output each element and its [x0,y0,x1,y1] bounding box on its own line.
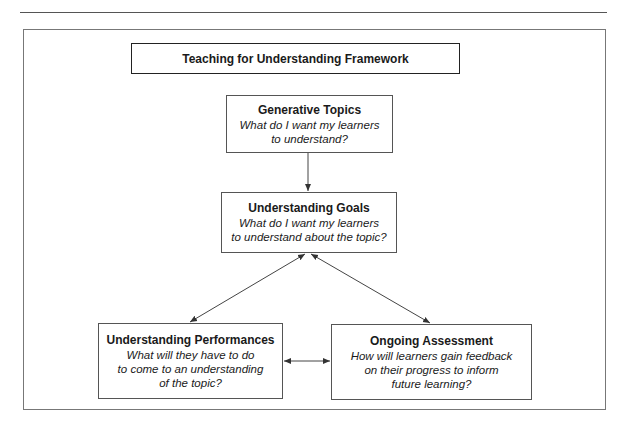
arrow-goals-assessment [311,254,430,323]
node-heading: Ongoing Assessment [370,334,493,349]
node-heading: Understanding Goals [248,201,369,216]
node-heading: Generative Topics [258,103,361,118]
node-understanding-performances: Understanding Performances What will the… [98,323,283,399]
node-question: What do I want my learners to understand… [231,216,386,244]
arrow-goals-performances [190,254,305,322]
node-ongoing-assessment: Ongoing Assessment How will learners gai… [331,324,532,400]
node-question: How will learners gain feedback on their… [351,349,513,391]
node-question: What will they have to do to come to an … [118,348,264,390]
node-heading: Understanding Performances [106,333,274,348]
node-understanding-goals: Understanding Goals What do I want my le… [221,192,397,253]
node-generative-topics: Generative Topics What do I want my lear… [226,95,393,153]
node-question: What do I want my learners to understand… [240,118,380,146]
